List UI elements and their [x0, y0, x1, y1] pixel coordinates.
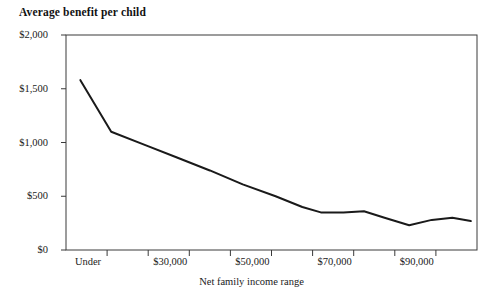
- axis-frame: [66, 35, 477, 250]
- tick-marks: [61, 35, 436, 256]
- x-axis-tick-label: $90,000: [400, 256, 434, 268]
- data-line-series-0: [80, 80, 470, 225]
- x-axis-tick-label: $70,000: [318, 256, 352, 268]
- chart-container: Average benefit per child $2,000$1,500$1…: [0, 0, 503, 302]
- x-axis-label-group: Under$30,000$50,000$70,000$90,000: [0, 256, 503, 276]
- data-series-group: [80, 80, 470, 225]
- x-axis-tick-label: $30,000: [153, 256, 187, 268]
- x-axis-tick-label: Under: [75, 256, 101, 268]
- x-axis-tick-label: $50,000: [235, 256, 269, 268]
- x-axis-caption: Net family income range: [0, 276, 503, 287]
